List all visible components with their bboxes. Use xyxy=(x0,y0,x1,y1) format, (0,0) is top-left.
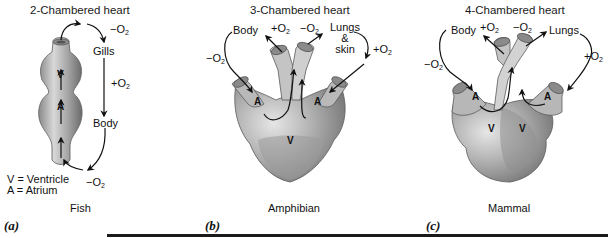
mammal-heart xyxy=(451,32,565,182)
o2-subscript: 2 xyxy=(125,29,129,36)
o2-subscript: 2 xyxy=(315,28,319,35)
panel-c-atrium-left-label: A xyxy=(472,91,479,102)
panel-a-caption: Fish xyxy=(70,202,91,214)
panel-b-plus-o2-top: +O2 xyxy=(271,22,290,35)
o2-subscript: 2 xyxy=(495,27,499,34)
bottom-rule xyxy=(107,234,608,237)
panel-b-atrium-left-label: A xyxy=(254,96,261,107)
panel-b-letter: (b) xyxy=(205,218,220,234)
o2-subscript: 2 xyxy=(599,56,603,63)
o2-label: +O xyxy=(480,21,495,33)
panel-c-title: 4-Chambered heart xyxy=(465,4,565,16)
legend-atrium: A = Atrium xyxy=(7,185,69,196)
panel-c-atrium-right-label: A xyxy=(544,91,551,102)
o2-label: −O xyxy=(513,21,528,33)
panel-b-body-label: Body xyxy=(233,24,258,36)
panel-c-caption: Mammal xyxy=(488,202,530,214)
panel-a-minus-o2-top: −O2 xyxy=(110,23,129,36)
o2-subscript: 2 xyxy=(126,83,130,90)
panel-b-minus-o2-left: −O2 xyxy=(206,52,225,65)
o2-subscript: 2 xyxy=(439,64,443,71)
panel-b-caption: Amphibian xyxy=(268,202,320,214)
panel-a-atrium-label: A xyxy=(57,101,64,112)
panel-b-plus-o2-right: +O2 xyxy=(373,43,392,56)
panel-a-ventricle-label: V xyxy=(57,69,64,80)
o2-label: −O xyxy=(206,52,221,64)
panel-b-title: 3-Chambered heart xyxy=(250,4,350,16)
o2-subscript: 2 xyxy=(528,27,532,34)
o2-label: +O xyxy=(111,77,126,89)
o2-label: −O xyxy=(86,176,101,188)
panel-a-title: 2-Chambered heart xyxy=(30,4,130,16)
panel-a-letter: (a) xyxy=(4,218,19,234)
o2-label: +O xyxy=(584,50,599,62)
o2-label: −O xyxy=(110,23,125,35)
panel-c-ventricle-left-label: V xyxy=(488,123,495,134)
panel-c-ventricle-right-label: V xyxy=(519,123,526,134)
panel-a-gills-label: Gills xyxy=(93,45,114,57)
o2-subscript: 2 xyxy=(221,58,225,65)
o2-label: +O xyxy=(271,22,286,34)
amphibian-heart xyxy=(232,41,348,182)
panel-b-atrium-right-label: A xyxy=(314,96,321,107)
o2-subscript: 2 xyxy=(286,28,290,35)
skin-text: skin xyxy=(330,44,360,55)
o2-label: −O xyxy=(300,22,315,34)
panel-a-minus-o2-bottom: −O2 xyxy=(86,176,105,189)
panel-c-minus-o2-left: −O2 xyxy=(424,58,443,71)
panel-a-body-label: Body xyxy=(93,117,118,129)
panel-c-lungs-label: Lungs xyxy=(549,24,579,36)
panel-a-legend: V = Ventricle A = Atrium xyxy=(7,174,69,196)
panel-c-plus-o2-right: +O2 xyxy=(584,50,603,63)
panel-b-minus-o2-top: −O2 xyxy=(300,22,319,35)
panel-b-ventricle-label: V xyxy=(287,135,294,146)
panel-b-lungs-skin-label: Lungs & skin xyxy=(330,22,360,55)
o2-label: −O xyxy=(424,58,439,70)
o2-subscript: 2 xyxy=(388,49,392,56)
panel-c-minus-o2-top: −O2 xyxy=(513,21,532,34)
panel-c-body-label: Body xyxy=(451,24,476,36)
panel-a-plus-o2: +O2 xyxy=(111,77,130,90)
o2-subscript: 2 xyxy=(101,182,105,189)
panel-c-plus-o2-top: +O2 xyxy=(480,21,499,34)
o2-label: +O xyxy=(373,43,388,55)
panel-c-letter: (c) xyxy=(426,218,440,234)
